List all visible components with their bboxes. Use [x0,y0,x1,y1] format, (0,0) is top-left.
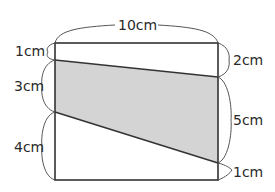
shaded-region [55,60,218,163]
diagram: 10cm 1cm 3cm 4cm 2cm 5cm 1cm [0,0,275,192]
right-brace-2cm [218,43,229,77]
label-left-top: 1cm [15,43,45,59]
right-brace-5cm [218,77,231,163]
label-left-middle: 3cm [14,78,44,94]
label-right-middle: 5cm [233,112,263,128]
left-brace-1cm [47,43,55,60]
label-top-width: 10cm [118,17,157,33]
right-brace-1cm [218,163,232,180]
label-right-top: 2cm [233,52,263,68]
label-left-bottom: 4cm [14,139,44,155]
label-right-bottom: 1cm [233,164,263,180]
